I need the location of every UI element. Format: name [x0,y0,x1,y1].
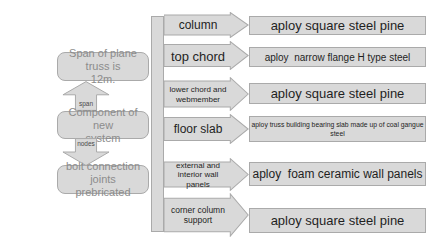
component-arrow-lower-chord-webmember: lower chord and webmember [164,77,249,111]
material-label: aploy square steel pine [271,18,405,33]
material-box-floor-slab: aploy truss building bearing slab made u… [249,116,426,142]
component-arrow-wall-panels: external and interior wall panels [164,158,249,191]
component-label: lower chord and webmember [166,85,230,104]
left-box-component-of-new-system: Component of new system [57,111,149,139]
connector-label-nodes: nodes [62,140,110,147]
component-label: corner column support [166,205,230,225]
truss-system-diagram: Span of plane truss is 12m. span Compone… [0,0,439,250]
spine-connector [151,16,164,232]
material-label: aploy truss building bearing slab made u… [252,120,424,138]
material-label: aploy square steel pine [271,213,405,228]
material-box-wall-panels: aploy foam ceramic wall panels [249,162,426,186]
component-arrow-floor-slab: floor slab [164,114,249,144]
material-box-top-chord: aploy narrow flange H type steel [249,47,426,67]
material-label: aploy square steel pine [271,86,405,101]
left-box-bolt-connection-joints: bolt connection joints prebricated [57,165,149,194]
material-box-lower-chord-webmember: aploy square steel pine [249,83,426,104]
left-box-span-of-truss: Span of plane truss is 12m. [57,52,149,81]
component-arrow-top-chord: top chord [164,41,249,70]
component-label: top chord [166,48,230,63]
component-arrow-corner-column-support: corner column support [164,193,249,237]
left-box-bolt-label: bolt connection joints prebricated [58,160,148,199]
component-arrow-column: column [164,12,249,38]
material-box-corner-column-support: aploy square steel pine [249,208,426,233]
component-label: floor slab [166,122,230,136]
component-label: column [166,18,230,32]
component-label: external and interior wall panels [166,160,230,189]
material-label: aploy foam ceramic wall panels [252,167,422,181]
material-label: aploy narrow flange H type steel [265,52,411,63]
material-box-column: aploy square steel pine [249,16,426,35]
